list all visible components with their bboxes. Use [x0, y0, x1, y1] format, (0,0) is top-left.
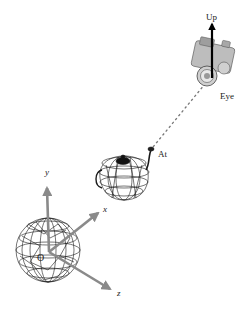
at-label: At [158, 150, 167, 159]
y-axis [47, 188, 49, 252]
up-label: Up [206, 13, 217, 22]
coordinate-axes [47, 188, 110, 289]
origin-label: O [37, 253, 44, 263]
wireframe-teapot [96, 147, 154, 200]
x-axis-label: x [103, 205, 107, 214]
y-axis-label: y [45, 168, 49, 177]
z-axis [49, 252, 110, 289]
eye-label: Eye [220, 92, 234, 101]
diagram-svg [0, 0, 249, 313]
diagram-canvas: Up Eye At O x y z [0, 0, 249, 313]
look-at-line [153, 84, 205, 147]
z-axis-label: z [117, 289, 121, 298]
